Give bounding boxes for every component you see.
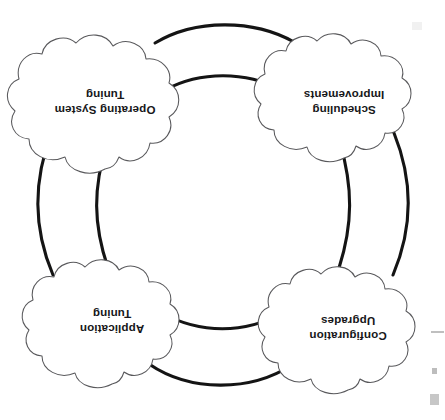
node-label-application-tuning-line1: Application (80, 323, 144, 336)
node-label-configuration-upgrades-line1: Configuration (309, 330, 386, 343)
node-label-configuration-upgrades-line2: Upgrades (321, 315, 375, 328)
connector-top-outer (149, 364, 292, 385)
scan-artifact-block (430, 394, 439, 405)
node-configuration-upgrades[interactable]: Configuration Upgrades (258, 267, 415, 394)
diagram-page: Configuration Upgrades Application Tunin… (0, 0, 445, 420)
node-label-scheduling-improvements-line2: Improvements (304, 89, 384, 102)
scan-artifact-mark (432, 368, 437, 374)
node-operating-system-tuning[interactable]: Operating System Tuning (7, 35, 178, 173)
node-label-operating-system-tuning-line2: Tuning (86, 89, 124, 102)
connector-bottom-outer (155, 25, 294, 43)
rotated-diagram-container: Configuration Upgrades Application Tunin… (0, 0, 445, 420)
node-label-application-tuning-line2: Tuning (93, 308, 131, 321)
node-label-scheduling-improvements-line1: Scheduling (312, 104, 375, 117)
node-scheduling-improvements[interactable]: Scheduling Improvements (254, 34, 411, 162)
connector-left-outer (393, 133, 408, 275)
cycle-diagram: Configuration Upgrades Application Tunin… (0, 0, 445, 420)
scan-artifact-faint (412, 22, 422, 30)
connector-left-inner (339, 143, 350, 268)
node-label-operating-system-tuning-line1: Operating System (55, 104, 156, 117)
scan-artifact-line (431, 331, 444, 333)
